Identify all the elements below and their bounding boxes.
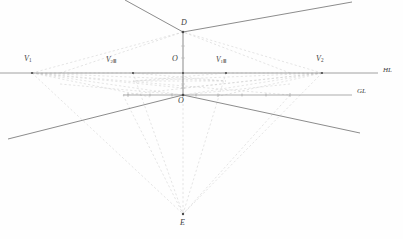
label-v1: V1 — [24, 55, 31, 63]
label-e: E — [180, 219, 185, 227]
label-o-top: O — [172, 55, 178, 63]
label-d: D — [181, 19, 187, 27]
label-o-bottom: O — [178, 97, 184, 105]
label-horizon-line: HL — [383, 67, 392, 74]
label-v2: V2 — [316, 55, 323, 63]
label-v2-iii: V2Ⅲ — [106, 56, 116, 65]
diagram-canvas: V1 V2Ⅲ O V1Ⅲ V2 HL GL O D E — [0, 0, 403, 239]
label-ground-line: GL — [357, 88, 366, 95]
perspective-construction-svg — [0, 0, 403, 239]
label-v1-iii: V1Ⅲ — [216, 56, 226, 65]
